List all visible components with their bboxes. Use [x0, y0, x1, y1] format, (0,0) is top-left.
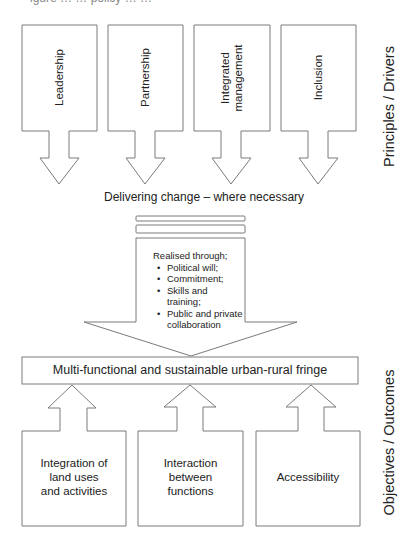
principle-label-partnership: Partnership — [139, 28, 152, 128]
cutoff-caption: igure … … policy … … — [30, 0, 152, 5]
realised-item: Commitment; — [167, 273, 245, 285]
objective-label-accessibility: Accessibility — [256, 470, 360, 484]
realised-item: Political will; — [167, 262, 245, 274]
outcome-bar-label: Multi-functional and sustainable urban-r… — [22, 363, 358, 377]
objective-label-interaction: Interaction between functions — [138, 456, 243, 498]
principle-label-leadership: Leadership — [53, 28, 66, 128]
realised-item: Public and private collaboration — [167, 308, 247, 331]
principle-label-inclusion: Inclusion — [312, 28, 325, 128]
realised-heading: Realised through; — [153, 250, 245, 262]
side-label-objectives-outcomes: Objectives / Outcomes — [381, 367, 398, 519]
delivering-change-label: Delivering change – where necessary — [104, 190, 304, 204]
realised-through-list: Realised through; Political will; Commit… — [153, 250, 245, 331]
objective-shape-accessibility — [256, 385, 360, 526]
strip-2 — [136, 225, 245, 233]
realised-item: Skills and training; — [167, 285, 227, 308]
objective-label-integration: Integration of land uses and activities — [22, 456, 126, 498]
side-label-principles-drivers: Principles / Drivers — [381, 42, 398, 172]
principle-label-integrated-management: Integrated management — [219, 28, 245, 128]
strip-1 — [136, 216, 245, 221]
